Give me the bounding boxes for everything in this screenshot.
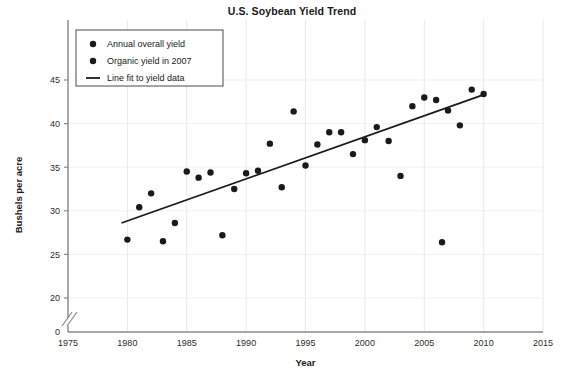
y-tick-label: 30 bbox=[50, 206, 60, 216]
data-point bbox=[243, 170, 249, 176]
legend-dot-marker bbox=[90, 58, 96, 64]
data-point bbox=[136, 204, 142, 210]
data-point bbox=[421, 94, 427, 100]
data-point bbox=[457, 122, 463, 128]
x-tick-label: 2015 bbox=[533, 338, 553, 348]
axis-break-mark bbox=[62, 312, 72, 326]
data-point bbox=[439, 239, 445, 245]
data-point bbox=[195, 174, 201, 180]
data-point bbox=[207, 169, 213, 175]
y-tick-label: 40 bbox=[50, 119, 60, 129]
data-point bbox=[231, 186, 237, 192]
y-tick-label: 35 bbox=[50, 163, 60, 173]
data-point bbox=[290, 108, 296, 114]
data-point bbox=[433, 97, 439, 103]
data-point bbox=[255, 167, 261, 173]
legend-label: Organic yield in 2007 bbox=[107, 56, 192, 66]
data-point bbox=[480, 91, 486, 97]
chart-container: U.S. Soybean Yield Trend 020253035404519… bbox=[0, 0, 584, 384]
x-tick-label: 1995 bbox=[295, 338, 315, 348]
x-axis-title: Year bbox=[295, 357, 315, 368]
fit-line bbox=[121, 94, 486, 223]
data-point bbox=[184, 168, 190, 174]
legend-label: Annual overall yield bbox=[107, 39, 185, 49]
data-point bbox=[219, 232, 225, 238]
axis-ticks: 0202530354045197519801985199019952000200… bbox=[50, 75, 553, 348]
x-tick-label: 2005 bbox=[414, 338, 434, 348]
y-axis-title: Bushels per acre bbox=[13, 157, 24, 234]
trend-line bbox=[121, 94, 486, 223]
data-point bbox=[374, 124, 380, 130]
y-tick-label: 0 bbox=[55, 327, 60, 337]
data-point bbox=[160, 238, 166, 244]
data-point bbox=[267, 140, 273, 146]
data-point bbox=[350, 151, 356, 157]
data-point bbox=[445, 107, 451, 113]
legend-label: Line fit to yield data bbox=[107, 73, 185, 83]
data-point bbox=[172, 220, 178, 226]
legend-dot-marker bbox=[90, 41, 96, 47]
data-point bbox=[326, 129, 332, 135]
data-point bbox=[397, 173, 403, 179]
chart-legend: Annual overall yieldOrganic yield in 200… bbox=[76, 30, 223, 86]
data-point bbox=[279, 184, 285, 190]
data-point bbox=[314, 141, 320, 147]
x-tick-label: 2010 bbox=[474, 338, 494, 348]
data-point bbox=[338, 129, 344, 135]
data-point bbox=[362, 137, 368, 143]
data-point bbox=[469, 86, 475, 92]
x-tick-label: 2000 bbox=[355, 338, 375, 348]
data-point bbox=[124, 236, 130, 242]
data-point bbox=[409, 103, 415, 109]
data-point bbox=[385, 138, 391, 144]
x-tick-label: 1980 bbox=[117, 338, 137, 348]
x-tick-label: 1990 bbox=[236, 338, 256, 348]
x-tick-label: 1975 bbox=[58, 338, 78, 348]
x-tick-label: 1985 bbox=[177, 338, 197, 348]
y-tick-label: 20 bbox=[50, 293, 60, 303]
scatter-plot: 0202530354045197519801985199019952000200… bbox=[0, 0, 584, 384]
data-point bbox=[148, 190, 154, 196]
data-point bbox=[302, 162, 308, 168]
y-tick-label: 45 bbox=[50, 75, 60, 85]
y-tick-label: 25 bbox=[50, 250, 60, 260]
